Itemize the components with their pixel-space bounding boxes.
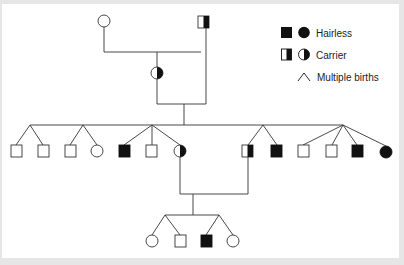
legend-item-multiple-births: Multiple births [298,72,379,83]
filled-circle-icon [298,27,310,39]
legend-label-carrier: Carrier [316,50,347,61]
gen3-male-unaffected [326,145,337,157]
pedigree-chart: Hairless Carrier Multiple births [0,0,404,265]
gen4-female-unaffected [146,235,158,247]
gen3-male-unaffected [38,145,49,157]
gen1-male-carrier [198,16,209,28]
gen3-male-hairless [271,145,282,157]
gen3-male-carrier [242,145,253,157]
legend: Hairless Carrier Multiple births [281,27,379,83]
gen3-female-unaffected [91,145,103,157]
half-square-icon [282,49,292,60]
gen3-male-unaffected [65,145,76,157]
legend-item-carrier: Carrier [282,49,348,61]
gen3-male-hairless [352,145,363,157]
gen2-female-carrier [151,67,163,79]
gen3-female-carrier [174,145,186,157]
gen3-male-hairless [119,145,130,157]
gen4-female-unaffected [227,235,239,247]
gen1-female-unaffected [98,15,110,27]
gen4-male-hairless [201,235,212,247]
gen3-male-unaffected [298,145,309,157]
gen3-female-hairless [380,146,392,158]
gen3-male-unaffected [11,145,22,157]
legend-label-multiple-births: Multiple births [317,72,379,83]
caret-icon [298,73,310,81]
filled-square-icon [281,27,292,38]
half-circle-icon [299,49,310,60]
gen4-male-unaffected [175,235,186,247]
gen3-male-unaffected [146,145,157,157]
legend-item-hairless: Hairless [281,27,352,39]
legend-label-hairless: Hairless [316,28,352,39]
